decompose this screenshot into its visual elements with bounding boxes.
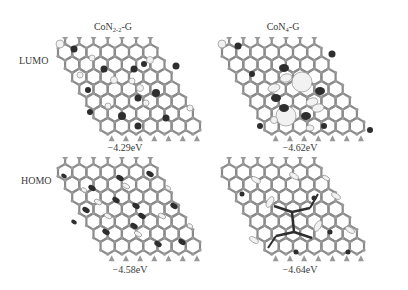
panel-lumo-con22 [50,36,222,142]
panel-homo-con22 [50,156,222,262]
molecule-lattice-homo-con22 [50,156,222,262]
panel-lumo-con4 [214,36,394,142]
title-base: CoN [94,21,113,32]
title-suffix: -G [289,21,300,32]
title-suffix: -G [122,21,133,32]
energy-lumo-con4: −4.62eV [275,142,325,154]
column-title-con4: CoN4-G [258,21,308,36]
molecule-lattice-lumo-con4 [214,36,394,142]
column-title-con22: CoN2-2-G [88,21,138,36]
panel-homo-con4 [214,156,394,262]
row-label-homo: HOMO [21,175,52,187]
energy-homo-con4: −4.64eV [275,264,325,276]
row-label-lumo: LUMO [19,55,48,67]
molecule-lattice-lumo-con22 [50,36,222,142]
energy-homo-con22: −4.58eV [105,264,155,276]
title-base: CoN [267,21,286,32]
energy-lumo-con22: −4.29eV [100,142,150,154]
molecule-lattice-homo-con4 [214,156,394,262]
title-subscript: 2-2 [113,26,122,33]
